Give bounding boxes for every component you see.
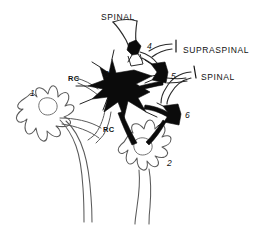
cell-label-2: 2 <box>167 159 172 168</box>
pathway-label-supraspinal: SUPRASPINAL <box>183 46 249 55</box>
cell-label-5: 5 <box>171 72 176 81</box>
cell-label-4: 4 <box>147 42 152 51</box>
neural-circuit-figure: SPINAL SUPRASPINAL SPINAL 1 2 3 4 5 6 RC… <box>0 0 258 233</box>
rc-label-upper: RC <box>68 75 79 83</box>
pathway-label-spinal-right: SPINAL <box>201 73 235 82</box>
neuron-2-outline <box>118 120 171 224</box>
diagram-canvas <box>0 0 258 233</box>
cell-label-6: 6 <box>185 111 190 120</box>
cell-label-3: 3 <box>104 70 109 79</box>
terminal-5-bouton <box>145 60 168 83</box>
supraspinal-afferent <box>149 44 172 57</box>
neuron-1-outline <box>16 86 92 222</box>
rc-label-lower: RC <box>103 126 114 134</box>
terminal-4-bouton <box>127 40 143 66</box>
cell-label-1: 1 <box>30 89 35 98</box>
pathway-label-spinal-top: SPINAL <box>101 13 135 22</box>
